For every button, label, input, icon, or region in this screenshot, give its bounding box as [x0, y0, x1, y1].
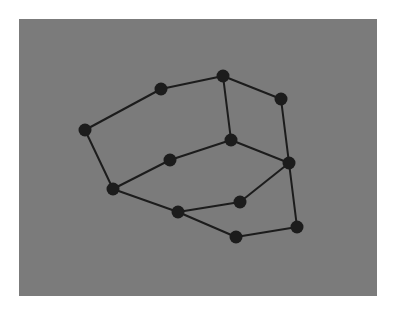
- graph-node: [155, 83, 168, 96]
- graph-edge: [223, 76, 231, 140]
- graph-edge: [178, 202, 240, 212]
- graph-edge: [113, 189, 178, 212]
- graph-edge: [170, 140, 231, 160]
- graph-edge: [85, 89, 161, 130]
- graph-node: [234, 196, 247, 209]
- graph-node: [225, 134, 238, 147]
- graph-node: [217, 70, 230, 83]
- graph-edge: [161, 76, 223, 89]
- graph-node: [164, 154, 177, 167]
- graph-edge: [223, 76, 281, 99]
- graph-edge: [236, 227, 297, 237]
- graph-node: [275, 93, 288, 106]
- graph-edge: [231, 140, 289, 163]
- graph-edges: [85, 76, 297, 237]
- graph-node: [291, 221, 304, 234]
- graph-node: [172, 206, 185, 219]
- graph-edge: [85, 130, 113, 189]
- graph-node: [230, 231, 243, 244]
- graph-edge: [240, 163, 289, 202]
- graph-node: [107, 183, 120, 196]
- graph-node: [79, 124, 92, 137]
- graph-diagram: [0, 0, 397, 313]
- graph-edge: [289, 163, 297, 227]
- graph-edge: [178, 212, 236, 237]
- graph-edge: [281, 99, 289, 163]
- graph-node: [283, 157, 296, 170]
- graph-edge: [113, 160, 170, 189]
